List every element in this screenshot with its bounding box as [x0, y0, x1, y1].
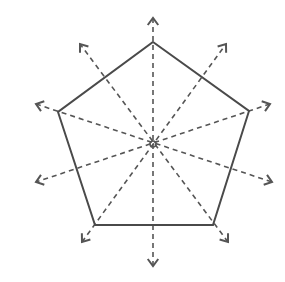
- arrowhead-icon: [82, 233, 90, 242]
- pentagon-outline: [58, 42, 249, 225]
- arrowhead-icon: [80, 44, 88, 53]
- arrowhead-icon: [220, 233, 228, 242]
- pentagon-symmetry-diagram: Regular pentagon with lines of symmetry: [0, 0, 285, 282]
- symmetry-line-3: [80, 44, 228, 242]
- symmetry-lines: [36, 18, 272, 266]
- symmetry-line-4: [82, 44, 226, 242]
- arrowhead-icon: [36, 175, 44, 185]
- diagram-canvas: [0, 0, 285, 282]
